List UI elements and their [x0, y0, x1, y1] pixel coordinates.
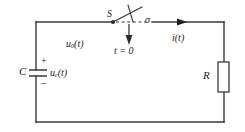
switch-blade [113, 7, 142, 22]
capacitor-polarity-minus-label: – [41, 78, 46, 88]
switch-time-label: t = 0 [114, 46, 134, 56]
switch-action-arrow [126, 24, 133, 45]
capacitor-voltage-argument: (t) [58, 67, 67, 78]
capacitor-label: C [19, 66, 26, 77]
current-label: i(t) [172, 33, 184, 43]
switch-terminal-label: σ [145, 15, 150, 25]
capacitor-polarity-plus-label: + [41, 56, 47, 66]
resistor-body [218, 62, 229, 92]
source-voltage-argument: (t) [74, 38, 83, 49]
capacitor-voltage-label: uc(t) [50, 68, 67, 79]
resistor-label: R [203, 70, 210, 81]
switch-label: S [107, 9, 112, 19]
circuit-diagram: C + – uc(t) u0(t) S σ t = 0 i(t) R [0, 0, 245, 132]
source-voltage-label: u0(t) [66, 39, 84, 50]
current-arrow-icon [177, 18, 187, 25]
circuit-schematic-canvas [0, 0, 245, 132]
